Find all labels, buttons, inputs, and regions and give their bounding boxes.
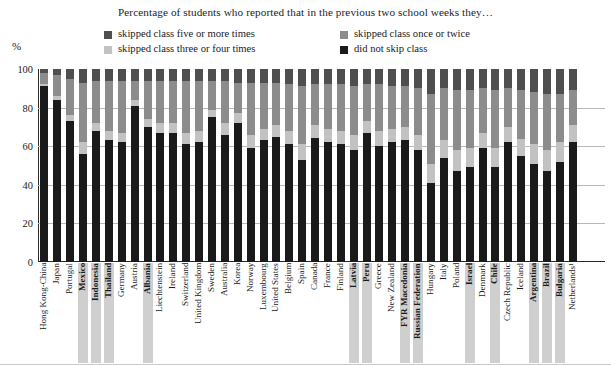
legend-item-once-or-twice: skipped class once or twice xyxy=(336,29,534,40)
bar-column xyxy=(40,69,48,262)
x-axis-tick-label: Korea xyxy=(233,263,243,363)
bar-segment xyxy=(414,69,422,88)
bar-segment xyxy=(530,92,538,144)
legend-item-five-or-more: skipped class five or more times xyxy=(104,29,336,40)
bar-segment xyxy=(363,121,371,133)
bar-column xyxy=(105,69,113,262)
bar-segment xyxy=(195,142,203,262)
bar-segment xyxy=(144,69,152,81)
bar-segment xyxy=(260,140,268,262)
bar-segment xyxy=(118,133,126,143)
x-axis-tick-label: Luxembourg xyxy=(259,263,269,363)
x-axis-tick-label: Germany xyxy=(117,263,127,363)
x-axis-tick-label: Czech Republic xyxy=(503,263,513,363)
bar-segment xyxy=(156,123,164,133)
bar-segment xyxy=(543,94,551,150)
bar-segment xyxy=(311,138,319,262)
bar-segment xyxy=(182,69,190,81)
bar-segment xyxy=(66,79,74,116)
bar-segment xyxy=(556,69,564,94)
bar-segment xyxy=(504,127,512,142)
bar-segment xyxy=(453,171,461,262)
legend-label-once-or-twice: skipped class once or twice xyxy=(354,29,470,40)
bar-column xyxy=(285,69,293,262)
bar-segment xyxy=(363,69,371,84)
x-axis-tick-label: Russian Federation xyxy=(413,263,423,363)
bar-segment xyxy=(479,133,487,148)
bar-column xyxy=(479,69,487,262)
bar-column xyxy=(324,69,332,262)
bar-segment xyxy=(517,90,525,138)
bar-column xyxy=(556,69,564,262)
bar-segment xyxy=(234,69,242,83)
bar-column xyxy=(234,69,242,262)
bar-segment xyxy=(79,154,87,262)
bar-segment xyxy=(131,106,139,262)
bar-segment xyxy=(131,69,139,81)
bar-segment xyxy=(221,123,229,135)
x-axis-tick-label: Argentina xyxy=(529,263,539,363)
bar-column xyxy=(260,69,268,262)
bar-segment xyxy=(92,81,100,123)
bar-segment xyxy=(491,148,499,167)
y-axis-tick-label: 20 xyxy=(7,218,33,229)
x-axis-tick-label: New Zealand xyxy=(387,263,397,363)
legend-swatch-did-not-skip xyxy=(340,46,348,54)
bar-segment xyxy=(234,83,242,114)
bar-segment xyxy=(324,69,332,84)
bar-segment xyxy=(66,69,74,79)
bar-segment xyxy=(118,69,126,81)
bar-segment xyxy=(350,135,358,150)
bar-segment xyxy=(324,84,332,128)
bar-segment xyxy=(221,81,229,123)
bar-column xyxy=(195,69,203,262)
x-axis-tick-label: Italy xyxy=(439,263,449,363)
bar-segment xyxy=(543,171,551,262)
bar-segment xyxy=(221,135,229,262)
bar-column xyxy=(272,69,280,262)
bar-segment xyxy=(311,125,319,139)
bar-segment xyxy=(337,131,345,145)
bar-segment xyxy=(105,81,113,131)
bar-segment xyxy=(285,69,293,84)
bar-segment xyxy=(401,69,409,86)
bar-segment xyxy=(530,144,538,163)
bar-segment xyxy=(479,148,487,262)
bar-segment xyxy=(79,69,87,83)
bar-segment xyxy=(491,167,499,262)
bar-segment xyxy=(401,86,409,127)
x-axis-tick-label: Canada xyxy=(310,263,320,363)
bar-segment xyxy=(298,86,306,144)
bar-segment xyxy=(195,81,203,131)
bar-segment xyxy=(182,144,190,262)
chart-title: Percentage of students who reported that… xyxy=(0,6,611,18)
bar-segment xyxy=(427,183,435,262)
bar-column xyxy=(363,69,371,262)
bar-segment xyxy=(40,86,48,262)
bar-segment xyxy=(530,69,538,92)
bar-segment xyxy=(105,69,113,81)
bar-column xyxy=(298,69,306,262)
bar-segment xyxy=(388,129,396,143)
x-axis-tick-label: Sweden xyxy=(207,263,217,363)
bar-segment xyxy=(440,69,448,88)
bar-segment xyxy=(479,88,487,132)
bar-segment xyxy=(504,69,512,88)
bar-column xyxy=(427,69,435,262)
bar-segment xyxy=(221,69,229,81)
bar-segment xyxy=(324,129,332,143)
bar-column xyxy=(79,69,87,262)
bar-segment xyxy=(440,88,448,140)
bar-column xyxy=(144,69,152,262)
bar-segment xyxy=(530,164,538,262)
bar-column xyxy=(466,69,474,262)
bar-segment xyxy=(427,69,435,94)
bar-column xyxy=(504,69,512,262)
bar-segment xyxy=(363,84,371,121)
bar-segment xyxy=(504,142,512,262)
bar-column xyxy=(375,69,383,262)
bar-segment xyxy=(440,158,448,262)
bar-segment xyxy=(195,69,203,81)
bar-segment xyxy=(182,133,190,145)
bar-segment xyxy=(324,142,332,262)
